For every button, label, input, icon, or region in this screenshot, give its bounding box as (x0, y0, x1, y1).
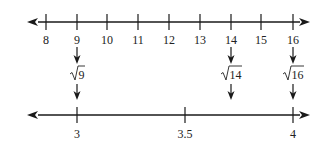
tick-15: 15 (255, 14, 267, 47)
tick-label: 8 (43, 33, 49, 47)
tick-13: 13 (194, 14, 206, 47)
square-root-number-line-diagram: 8910111213141516 91416 33.54 (0, 0, 331, 151)
tick-3.5: 3.5 (178, 107, 193, 141)
tick-label: 13 (194, 33, 206, 47)
tick-8: 8 (43, 14, 49, 47)
tick-11: 11 (132, 14, 144, 47)
tick-4: 4 (290, 107, 296, 141)
left-arrowhead-icon (27, 18, 38, 26)
tick-label: 15 (255, 33, 267, 47)
bottom-number-line: 33.54 (27, 107, 310, 141)
tick-14: 14 (225, 14, 237, 47)
radicand-label: 14 (230, 68, 242, 82)
right-arrowhead-icon (299, 18, 310, 26)
tick-label: 11 (132, 33, 144, 47)
tick-16: 16 (287, 14, 299, 47)
tick-9: 9 (74, 14, 80, 47)
tick-label: 16 (287, 33, 299, 47)
tick-label: 10 (101, 33, 113, 47)
left-arrowhead-icon (27, 111, 38, 119)
sqrt-mapping-16: 16 (283, 47, 304, 100)
tick-12: 12 (163, 14, 175, 47)
tick-3: 3 (74, 107, 80, 141)
sqrt-mapping-9: 9 (70, 47, 85, 100)
tick-label: 3 (74, 127, 80, 141)
sqrt-mapping-14: 14 (221, 47, 242, 100)
tick-label: 12 (163, 33, 175, 47)
tick-label: 3.5 (178, 127, 193, 141)
tick-label: 9 (74, 33, 80, 47)
tick-label: 4 (290, 127, 296, 141)
tick-label: 14 (225, 33, 237, 47)
top-number-line: 8910111213141516 (27, 14, 310, 47)
tick-10: 10 (101, 14, 113, 47)
radicand-label: 9 (79, 68, 85, 82)
radicand-label: 16 (292, 68, 304, 82)
right-arrowhead-icon (299, 111, 310, 119)
sqrt-mappings: 91416 (70, 47, 304, 100)
